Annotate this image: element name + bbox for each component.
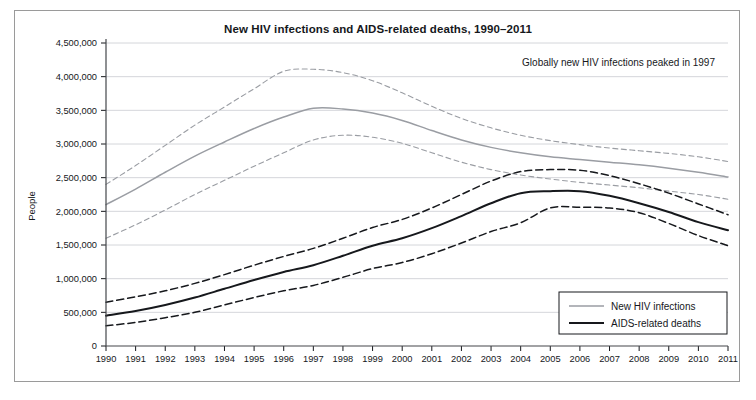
y-tick-label: 1,500,000 — [56, 240, 97, 250]
x-tick-label: 1996 — [273, 354, 294, 364]
y-tick-label: 2,000,000 — [56, 207, 97, 217]
y-tick-label: 4,000,000 — [56, 72, 97, 82]
x-tick-label: 1995 — [244, 354, 265, 364]
x-tick-label: 2009 — [658, 354, 679, 364]
x-tick-label: 1997 — [303, 354, 324, 364]
y-tick-label: 0 — [92, 341, 97, 351]
legend: New HIV infectionsAIDS-related deaths — [559, 292, 727, 334]
y-tick-label: 4,500,000 — [56, 38, 97, 48]
x-tick-label: 2008 — [629, 354, 650, 364]
y-tick-group: 0500,0001,000,0001,500,0002,000,0002,500… — [56, 38, 106, 351]
x-tick-label: 1992 — [155, 354, 176, 364]
chart-annotation: Globally new HIV infections peaked in 19… — [522, 57, 715, 68]
x-tick-label: 2003 — [481, 354, 502, 364]
legend-label: New HIV infections — [611, 301, 695, 312]
x-tick-label: 1993 — [185, 354, 206, 364]
figure-frame: New HIV infections and AIDS-related deat… — [14, 10, 740, 382]
x-tick-label: 1999 — [362, 354, 383, 364]
series-group — [106, 69, 728, 326]
y-tick-label: 3,000,000 — [56, 139, 97, 149]
x-tick-label: 1990 — [96, 354, 117, 364]
x-tick-label: 2000 — [392, 354, 413, 364]
y-tick-label: 500,000 — [63, 308, 97, 318]
x-tick-label: 2011 — [718, 354, 738, 364]
x-tick-label: 2007 — [599, 354, 620, 364]
gridlines-group — [106, 43, 728, 312]
chart-page: New HIV infections and AIDS-related deat… — [0, 0, 756, 400]
x-tick-label: 1994 — [214, 354, 235, 364]
x-tick-label: 1998 — [333, 354, 354, 364]
legend-label: AIDS-related deaths — [611, 318, 701, 329]
x-tick-label: 2001 — [421, 354, 442, 364]
y-tick-label: 1,000,000 — [56, 274, 97, 284]
series-line — [106, 69, 728, 184]
y-tick-label: 2,500,000 — [56, 173, 97, 183]
x-tick-label: 2002 — [451, 354, 472, 364]
series-line — [106, 169, 728, 302]
x-tick-group: 1990199119921993199419951996199719981999… — [96, 346, 738, 364]
x-tick-label: 2006 — [570, 354, 591, 364]
x-tick-label: 2010 — [688, 354, 709, 364]
y-axis-label: People — [26, 191, 37, 221]
y-tick-label: 3,500,000 — [56, 106, 97, 116]
x-tick-label: 1991 — [125, 354, 146, 364]
x-tick-label: 2005 — [540, 354, 561, 364]
x-tick-label: 2004 — [510, 354, 531, 364]
chart-canvas: 0500,0001,000,0001,500,0002,000,0002,500… — [15, 11, 741, 383]
